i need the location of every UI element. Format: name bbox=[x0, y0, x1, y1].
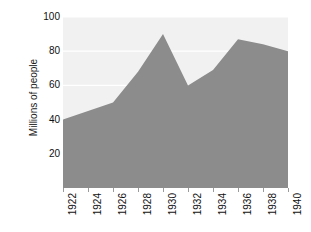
x-tick-label: 1936 bbox=[243, 193, 253, 227]
x-tick-mark bbox=[138, 188, 139, 192]
x-tick-mark bbox=[263, 188, 264, 192]
x-tick-mark bbox=[213, 188, 214, 192]
x-tick-mark bbox=[88, 188, 89, 192]
x-tick-label: 1934 bbox=[218, 193, 228, 227]
x-tick-label: 1932 bbox=[193, 193, 203, 227]
x-tick-label: 1940 bbox=[293, 193, 303, 227]
x-tick-label: 1930 bbox=[168, 193, 178, 227]
x-tick-label: 1928 bbox=[143, 193, 153, 227]
x-tick-mark bbox=[238, 188, 239, 192]
x-tick-label: 1938 bbox=[268, 193, 278, 227]
x-tick-mark bbox=[288, 188, 289, 192]
x-tick-mark bbox=[163, 188, 164, 192]
x-tick-label: 1924 bbox=[93, 193, 103, 227]
x-tick-label: 1922 bbox=[68, 193, 78, 227]
x-axis-tick-labels: 1922192419261928193019321934193619381940 bbox=[0, 0, 311, 232]
area-chart: Millions of people 100 80 60 40 20 19221… bbox=[0, 0, 311, 232]
x-tick-mark bbox=[113, 188, 114, 192]
x-tick-mark bbox=[188, 188, 189, 192]
x-tick-mark bbox=[63, 188, 64, 192]
x-tick-label: 1926 bbox=[118, 193, 128, 227]
